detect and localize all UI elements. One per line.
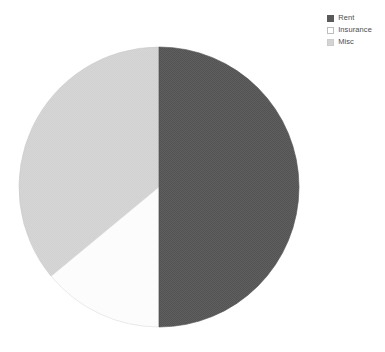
pie-plot-area: [0, 0, 385, 352]
legend-item-insurance[interactable]: Insurance: [327, 25, 372, 35]
legend-swatch-rent: [327, 15, 334, 22]
pie-svg: [0, 0, 385, 352]
pie-chart: Rent Insurance Misc: [0, 0, 385, 352]
legend-label-rent: Rent: [338, 14, 354, 22]
legend-item-misc[interactable]: Misc: [327, 37, 354, 47]
legend-swatch-insurance: [327, 27, 334, 34]
legend-swatch-misc: [327, 39, 334, 46]
legend-label-insurance: Insurance: [338, 26, 372, 34]
legend: Rent Insurance Misc: [327, 13, 372, 47]
pie-slice-rent: [159, 47, 299, 327]
legend-label-misc: Misc: [338, 38, 354, 46]
legend-item-rent[interactable]: Rent: [327, 13, 354, 23]
